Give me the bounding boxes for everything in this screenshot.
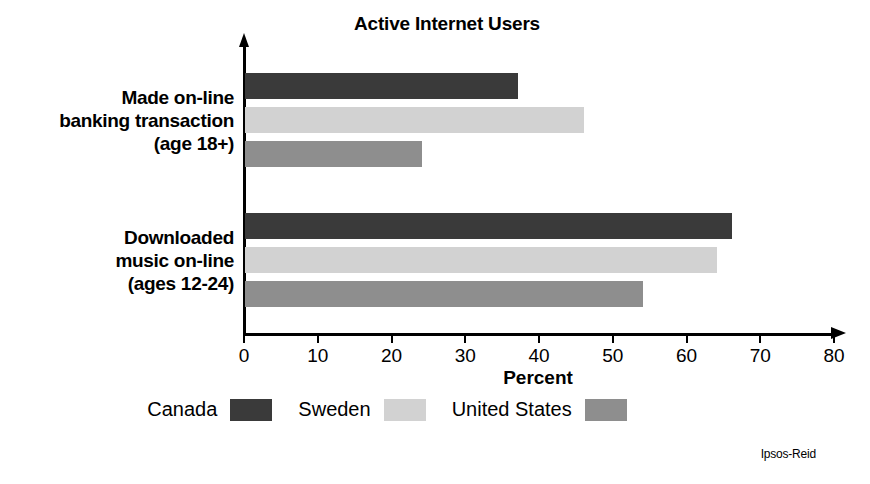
x-tick-40 [538, 336, 540, 343]
x-tick-label-70: 70 [730, 345, 790, 367]
x-tick-label-80: 80 [804, 345, 864, 367]
x-tick-label-40: 40 [509, 345, 569, 367]
x-tick-60 [686, 336, 688, 343]
bar-united-states-group-1 [245, 281, 643, 307]
chart-title: Active Internet Users [0, 13, 870, 35]
x-tick-label-20: 20 [362, 345, 422, 367]
legend-swatch [585, 399, 627, 421]
x-tick-30 [464, 336, 466, 343]
legend-item-sweden: Sweden [298, 398, 425, 421]
legend-label: Canada [147, 398, 217, 421]
category-axis-labels: Made on-linebanking transaction(age 18+)… [0, 46, 234, 336]
category-label-banking: Made on-linebanking transaction(age 18+) [4, 86, 234, 155]
x-tick-label-0: 0 [214, 345, 274, 367]
x-tick-80 [833, 336, 835, 343]
x-tick-label-60: 60 [657, 345, 717, 367]
legend-item-canada: Canada [147, 398, 272, 421]
bar-canada-group-1 [245, 213, 732, 239]
category-label-music: Downloadedmusic on-line(ages 12-24) [4, 226, 234, 295]
bar-sweden-group-1 [245, 247, 717, 273]
y-axis-arrow-icon [239, 33, 249, 47]
x-tick-70 [759, 336, 761, 343]
legend-label: Sweden [298, 398, 370, 421]
x-tick-20 [391, 336, 393, 343]
chart-container: Active Internet Users Made on-linebankin… [0, 0, 870, 484]
legend-label: United States [452, 398, 572, 421]
legend-swatch [384, 399, 426, 421]
bar-united-states-group-0 [245, 141, 422, 167]
x-tick-label-30: 30 [435, 345, 495, 367]
x-tick-0 [243, 336, 245, 343]
bar-sweden-group-0 [245, 107, 584, 133]
x-tick-50 [612, 336, 614, 343]
source-credit: Ipsos-Reid [761, 447, 816, 461]
legend-swatch [230, 399, 272, 421]
bar-canada-group-0 [245, 73, 518, 99]
x-tick-label-50: 50 [583, 345, 643, 367]
x-tick-10 [317, 336, 319, 343]
plot-area: 01020304050607080 [243, 46, 867, 336]
x-tick-label-10: 10 [288, 345, 348, 367]
x-axis-title: Percent [243, 367, 833, 389]
legend-item-united-states: United States [452, 398, 627, 421]
chart-legend: CanadaSwedenUnited States [0, 398, 870, 421]
